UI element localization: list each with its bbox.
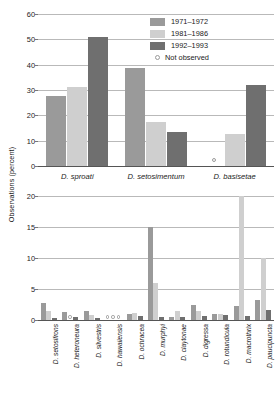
bar[interactable]	[212, 314, 217, 320]
legend-color-swatch	[150, 30, 165, 38]
legend-color-swatch	[150, 18, 165, 26]
bar-slot	[105, 196, 110, 320]
y-axis-tick-label: 30	[27, 86, 35, 95]
bar-group-bars	[253, 196, 274, 320]
bar-slot	[62, 196, 67, 320]
bar-slot	[266, 196, 271, 320]
bar[interactable]	[255, 300, 260, 320]
bar[interactable]	[84, 311, 89, 320]
y-axis-tick-label: 60	[27, 10, 35, 19]
x-axis-category-label: D. paucipuncta	[266, 324, 273, 368]
bar-group: D. rotundicula	[210, 196, 231, 320]
x-axis-category-label: D. rotundicula	[223, 324, 230, 365]
bar-slot	[169, 196, 174, 320]
bar[interactable]	[261, 258, 266, 320]
bar-group: D. setosifrons	[38, 196, 59, 320]
bar[interactable]	[146, 122, 166, 166]
bar-group-bars	[38, 14, 117, 166]
bar[interactable]	[202, 316, 207, 320]
bar-slot	[138, 196, 143, 320]
bar[interactable]	[225, 134, 245, 166]
x-axis-line	[38, 166, 274, 167]
bar-slot	[111, 196, 116, 320]
x-axis-category-label: D. ochracea	[138, 324, 145, 360]
bar[interactable]	[73, 317, 78, 320]
bar[interactable]	[246, 85, 266, 166]
bar[interactable]	[180, 317, 185, 320]
bar[interactable]	[127, 314, 132, 320]
not-observed-marker	[68, 315, 72, 319]
legend-item[interactable]: 1992–1993	[150, 40, 268, 51]
x-axis-category-label: D. digressa	[202, 324, 209, 357]
bar[interactable]	[218, 314, 223, 320]
bar-group-bars	[59, 196, 80, 320]
bar-slot	[95, 196, 100, 320]
bar[interactable]	[46, 96, 66, 166]
bar[interactable]	[239, 196, 244, 320]
bar-slot	[245, 196, 250, 320]
bar[interactable]	[169, 317, 174, 320]
bar[interactable]	[159, 317, 164, 320]
bar[interactable]	[196, 311, 201, 320]
bar[interactable]	[234, 306, 239, 320]
bar[interactable]	[167, 132, 187, 166]
bar-slot	[180, 196, 185, 320]
bar-group: D. silvestris	[81, 196, 102, 320]
bar-group-bars	[231, 196, 252, 320]
bar-group: D. sproati	[38, 14, 117, 166]
not-observed-marker	[106, 315, 110, 319]
y-axis-tick-label: 10	[27, 254, 35, 263]
legend-item-label: Not observed	[165, 53, 209, 62]
legend-item[interactable]: 1981–1986	[150, 28, 268, 39]
y-axis-tick-label: 20	[27, 192, 35, 201]
bar-slot	[88, 14, 108, 166]
x-axis-category-label: D. silvestris	[95, 324, 102, 358]
y-axis-tick-label: 50	[27, 35, 35, 44]
bar-group-bars	[145, 196, 166, 320]
bar-slot	[196, 196, 201, 320]
bar[interactable]	[41, 303, 46, 320]
bar[interactable]	[153, 283, 158, 320]
bar[interactable]	[148, 227, 153, 320]
y-axis-label: Observations (percent)	[7, 110, 16, 260]
x-axis-category-label: D. setosimentum	[127, 172, 184, 181]
bar-group: D. digressa	[188, 196, 209, 320]
bar-slot	[67, 14, 87, 166]
legend-color-swatch	[150, 42, 165, 50]
bar[interactable]	[125, 68, 145, 166]
bar-group: D. murphyi	[145, 196, 166, 320]
bar[interactable]	[223, 315, 228, 320]
bar-group-bars	[124, 196, 145, 320]
bar-slot	[46, 14, 66, 166]
bar-slot	[261, 196, 266, 320]
bar[interactable]	[67, 87, 87, 166]
bar[interactable]	[245, 316, 250, 320]
legend-item[interactable]: 1971–1972	[150, 16, 268, 27]
bar-slot	[223, 196, 228, 320]
bar-slot	[132, 196, 137, 320]
legend-item-label: 1981–1986	[171, 29, 208, 38]
bar-group-bars	[102, 196, 123, 320]
bar-group: D. ochracea	[124, 196, 145, 320]
bar-slot	[68, 196, 73, 320]
bar-group-bars	[210, 196, 231, 320]
bar-slot	[148, 196, 153, 320]
bar[interactable]	[46, 311, 51, 320]
bar[interactable]	[266, 310, 271, 320]
legend-item[interactable]: Not observed	[150, 52, 268, 63]
x-axis-category-label: D. heteroneura	[73, 324, 80, 368]
bar[interactable]	[52, 318, 57, 320]
bar-group: D. claytonae	[167, 196, 188, 320]
bar[interactable]	[88, 37, 108, 166]
bar[interactable]	[132, 313, 137, 320]
bar[interactable]	[95, 318, 100, 320]
not-observed-marker	[212, 158, 216, 162]
bar[interactable]	[191, 305, 196, 321]
x-axis-category-label: D. hawaiiensis	[116, 324, 123, 367]
bar-slot	[73, 196, 78, 320]
bar[interactable]	[62, 312, 67, 320]
bar[interactable]	[89, 315, 94, 320]
bar-slot	[234, 196, 239, 320]
bar[interactable]	[138, 316, 143, 320]
bar[interactable]	[175, 311, 180, 320]
